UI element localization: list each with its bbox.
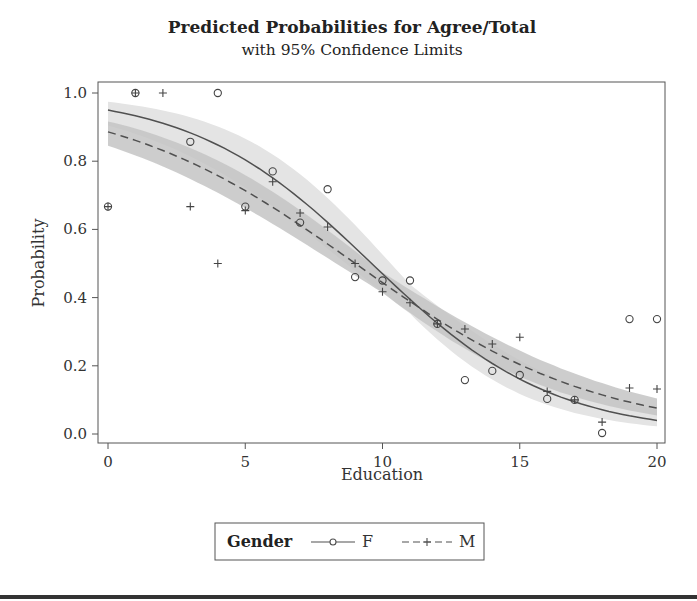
point-f — [214, 89, 221, 96]
legend-marker-f — [330, 539, 336, 545]
x-axis-label: Education — [341, 465, 423, 484]
chart-subtitle: with 95% Confidence Limits — [241, 41, 462, 59]
y-axis: 0.00.20.40.60.81.0 — [63, 84, 98, 443]
x-tick-label: 0 — [103, 453, 113, 471]
y-tick-label: 0.8 — [63, 152, 87, 170]
legend-title: Gender — [227, 532, 293, 551]
y-tick-label: 0.4 — [63, 289, 87, 307]
point-m — [186, 203, 194, 211]
y-tick-label: 0.2 — [63, 357, 87, 375]
y-axis-label: Probability — [29, 219, 48, 308]
point-m — [653, 385, 661, 393]
point-m — [159, 89, 167, 97]
legend-label-m: M — [459, 532, 475, 551]
point-f — [653, 316, 660, 323]
point-f — [461, 377, 468, 384]
point-m — [214, 260, 222, 268]
legend-label-f: F — [362, 532, 373, 551]
x-tick-label: 5 — [240, 453, 250, 471]
x-tick-label: 15 — [510, 453, 529, 471]
chart: Predicted Probabilities for Agree/Total … — [0, 0, 697, 601]
y-tick-label: 0.0 — [63, 425, 87, 443]
point-f — [626, 316, 633, 323]
point-f — [599, 429, 606, 436]
point-f — [406, 277, 413, 284]
point-m — [516, 333, 524, 341]
y-tick-label: 0.6 — [63, 220, 87, 238]
point-f — [324, 186, 331, 193]
legend: Gender F M — [215, 523, 484, 560]
x-tick-label: 20 — [647, 453, 666, 471]
chart-title: Predicted Probabilities for Agree/Total — [168, 17, 537, 37]
bottom-rule — [0, 595, 697, 599]
confidence-bands — [108, 102, 657, 427]
y-tick-label: 1.0 — [63, 84, 87, 102]
